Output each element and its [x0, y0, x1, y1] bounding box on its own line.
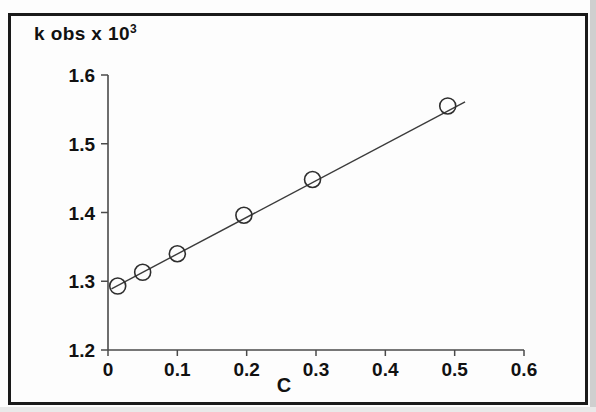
y-tick-label: 1.3: [69, 271, 95, 292]
y-tick-label: 1.5: [69, 134, 96, 155]
y-axis-ticks: 1.21.31.41.51.6: [69, 65, 108, 361]
x-axis-label: C: [0, 374, 596, 397]
fit-line: [111, 102, 465, 289]
y-tick-label: 1.4: [69, 203, 96, 224]
x-axis-label-text: C: [277, 374, 291, 396]
plot-area: 1.21.31.41.51.6 00.10.20.30.40.50.6: [0, 0, 596, 412]
figure-root: k obs x 103 1.21.31.41.51.6 00.10.20.30.…: [0, 0, 596, 412]
y-tick-label: 1.2: [69, 340, 95, 361]
data-point-markers: [110, 98, 456, 294]
y-tick-label: 1.6: [69, 65, 95, 86]
